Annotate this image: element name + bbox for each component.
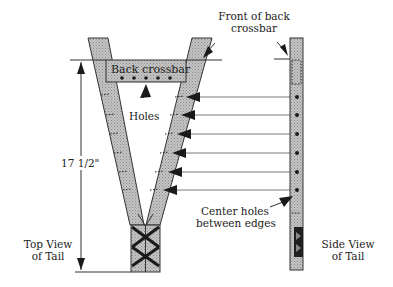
dimension-label: 17 1/2" — [60, 156, 100, 170]
center-holes-line2: between edges — [196, 217, 274, 229]
front-label-line2: crossbar — [206, 22, 302, 34]
top-view-line1: Top View — [18, 238, 78, 250]
top-view-label: Top View of Tail — [18, 238, 78, 262]
front-of-back-crossbar-label: Front of back crossbar — [206, 10, 302, 34]
top-view-line2: of Tail — [18, 250, 78, 262]
center-holes-label: Center holes between edges — [196, 205, 274, 229]
front-label-line1: Front of back — [206, 10, 302, 22]
side-view-lacing — [294, 227, 303, 257]
holes-label: Holes — [129, 110, 159, 122]
holes-pointer-arrow — [140, 84, 151, 98]
front-crossbar-pointer-arrows — [203, 42, 288, 58]
side-view-line2: of Tail — [318, 250, 378, 262]
back-crossbar-label: Back crossbar — [111, 64, 190, 76]
side-view-line1: Side View — [318, 238, 378, 250]
center-holes-line1: Center holes — [196, 205, 274, 217]
side-view-label: Side View of Tail — [318, 238, 378, 262]
